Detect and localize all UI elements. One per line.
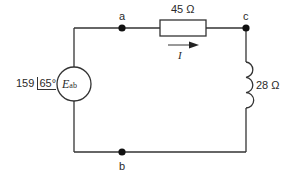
node-b-dot — [118, 148, 125, 155]
node-a-dot — [118, 24, 125, 31]
source-magnitude: 159 — [16, 77, 34, 89]
source-symbol: Eab — [62, 78, 77, 90]
source-value: 159 65° — [16, 78, 56, 89]
source-angle: 65° — [37, 77, 56, 90]
resistor-label: 45 Ω — [171, 4, 195, 15]
current-arrow-icon — [189, 42, 199, 49]
node-a-label: a — [119, 11, 125, 22]
node-b-label: b — [119, 161, 125, 171]
inductor-label: 28 Ω — [256, 80, 280, 91]
source-subscript: ab — [69, 81, 77, 90]
current-label: I — [178, 50, 182, 61]
node-c-dot — [242, 24, 249, 31]
resistor-icon — [160, 20, 206, 36]
node-c-label: c — [243, 11, 249, 22]
inductor-icon — [246, 62, 254, 108]
